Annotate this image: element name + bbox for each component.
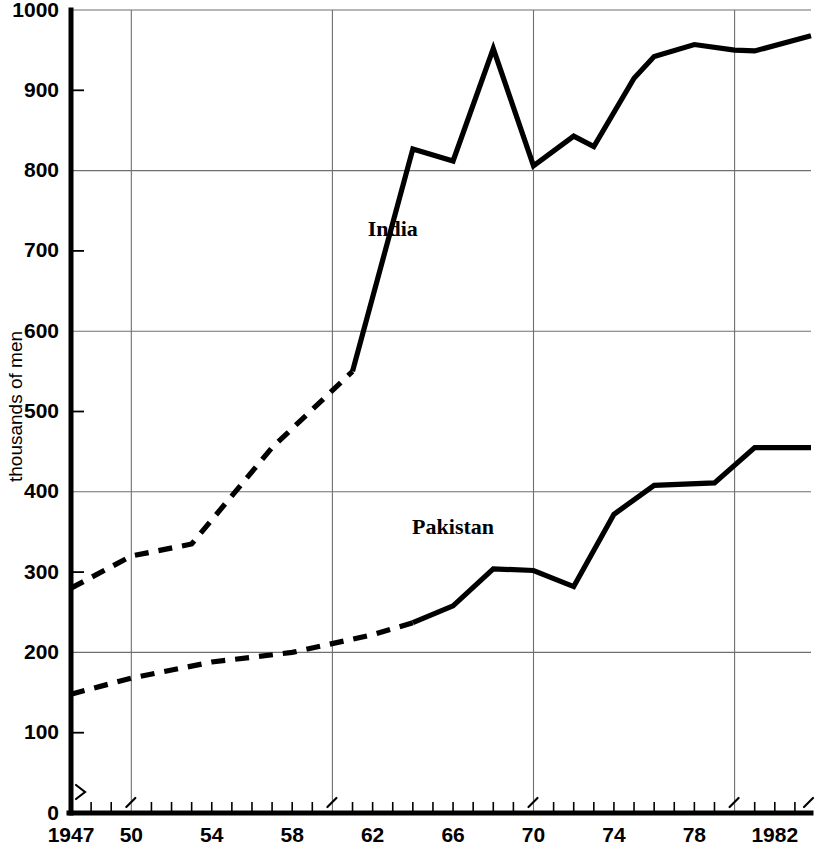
axis-title-layer: thousands of men: [5, 331, 26, 482]
x-axis-tick-label: 66: [441, 823, 464, 846]
x-axis-break-mark: [804, 798, 813, 807]
x-axis-tick-label: 74: [602, 823, 626, 846]
x-axis-tick-label: 50: [120, 823, 143, 846]
x-axis-tick-label: 1947: [48, 823, 95, 846]
y-axis-tick-label: 800: [24, 158, 59, 181]
y-axis-tick-label: 900: [24, 78, 59, 101]
x-axis-tick-label: 58: [281, 823, 305, 846]
y-axis-title: thousands of men: [5, 331, 26, 482]
y-axis-break-mark: [76, 785, 85, 799]
y-axis-tick-label: 1000: [12, 0, 59, 21]
series-line-india: [353, 36, 811, 372]
gridlines-layer: [71, 10, 811, 813]
series-label-pakistan: Pakistan: [412, 514, 494, 539]
x-axis-tick-label: 62: [361, 823, 384, 846]
y-axis-tick-label: 600: [24, 319, 59, 342]
y-axis-tick-label: 700: [24, 238, 59, 261]
x-axis-tick-label: 54: [200, 823, 224, 846]
x-axis-tick-label: 1982: [751, 823, 798, 846]
y-axis-tick-label: 500: [24, 399, 59, 422]
y-axis-tick-label: 400: [24, 479, 59, 502]
ticks-layer: [71, 90, 795, 813]
y-axis-tick-label: 100: [24, 720, 59, 743]
data-lines-layer: [71, 36, 811, 694]
series-annotations-layer: IndiaPakistan: [368, 216, 494, 539]
y-axis-tick-label: 0: [47, 801, 59, 824]
x-axis-tick-label: 78: [683, 823, 707, 846]
series-line-estimated-india: [71, 371, 353, 588]
series-label-india: India: [368, 216, 418, 241]
line-chart-figure: 0100200300400500600700800900100019475054…: [0, 0, 815, 857]
x-axis-tick-label: 70: [522, 823, 545, 846]
y-axis-tick-label: 300: [24, 560, 59, 583]
series-line-estimated-pakistan: [71, 623, 413, 694]
axis-layer: [69, 10, 813, 813]
chart-svg: 0100200300400500600700800900100019475054…: [0, 0, 815, 857]
tick-labels-layer: 0100200300400500600700800900100019475054…: [12, 0, 798, 846]
y-axis-tick-label: 200: [24, 640, 59, 663]
